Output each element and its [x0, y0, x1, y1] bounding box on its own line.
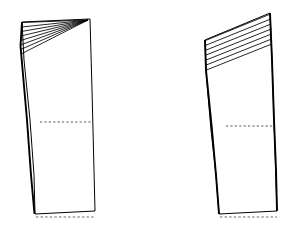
left-pattern-piece[interactable]	[21, 19, 96, 217]
pattern-diagram-canvas	[0, 0, 301, 239]
pattern-diagram-svg	[0, 0, 301, 239]
